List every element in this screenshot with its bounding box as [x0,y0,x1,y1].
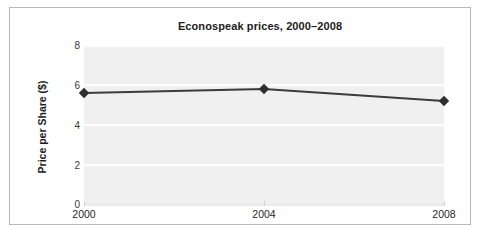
data-series-layer [0,0,493,226]
series-markers [79,84,449,106]
data-point-marker [79,88,89,98]
data-point-marker [439,96,449,106]
chart-figure: Econospeak prices, 2000–2008 Price per S… [0,0,493,226]
data-point-marker [259,84,269,94]
